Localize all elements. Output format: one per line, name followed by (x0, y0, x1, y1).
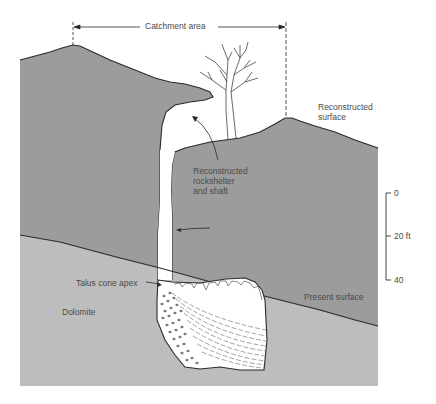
catchment-area-label: Catchment area (145, 21, 205, 31)
scale-bar (386, 193, 391, 280)
present-surface-label: Present surface (304, 292, 364, 302)
talus-cone-apex-label: Talus cone apex (76, 278, 137, 288)
scale-tick-20ft: 20 ft (394, 231, 411, 241)
cross-section-diagram (0, 0, 436, 404)
arrowhead-up (192, 116, 198, 122)
scale-tick-0: 0 (394, 188, 399, 198)
reconstructed-rockshelter-label: Reconstructed rockshelter and shaft (193, 166, 248, 196)
reconstructed-surface-label: Reconstructed surface (318, 102, 373, 122)
scale-tick-40: 40 (394, 275, 403, 285)
dolomite-label: Dolomite (62, 307, 96, 317)
